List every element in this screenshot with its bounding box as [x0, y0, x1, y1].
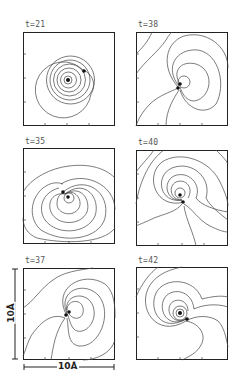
center-dot-icon: [66, 78, 70, 82]
tip-dot-icon: [82, 69, 86, 73]
tip-dot-icon: [176, 86, 180, 90]
panel-label: t=21: [25, 20, 45, 29]
contour-plot: [23, 268, 115, 360]
tip-dot-icon: [64, 313, 68, 317]
horizontal-scale-label: 10Å: [57, 361, 79, 371]
panel-label: t=42: [138, 256, 158, 265]
vertical-scale-label: 10Å: [6, 302, 16, 324]
tip-dot-icon: [185, 317, 189, 321]
tip-dot-icon: [181, 200, 185, 204]
center-dot-icon: [178, 311, 182, 315]
center-dot-icon: [178, 82, 182, 86]
center-dot-icon: [67, 310, 71, 314]
center-dot-icon: [178, 193, 182, 197]
panel-label: t=37: [25, 256, 45, 265]
contour-plot: [136, 32, 228, 126]
contour-plot: [23, 148, 115, 244]
panel-label: t=40: [138, 138, 158, 147]
panel-label: t=35: [25, 137, 45, 146]
tip-dot-icon: [66, 195, 70, 199]
panel-label: t=38: [138, 20, 158, 29]
center-dot-icon: [61, 190, 65, 194]
contour-plot: [136, 150, 228, 246]
contour-plot: [136, 267, 228, 360]
contour-plot: [23, 32, 115, 126]
